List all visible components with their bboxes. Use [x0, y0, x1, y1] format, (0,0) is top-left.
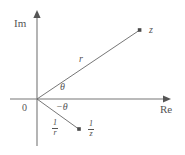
point-label-z: z: [149, 25, 153, 35]
imaginary-axis-label: Im: [14, 18, 26, 29]
real-axis-arrow-icon: [163, 95, 171, 102]
one-over-r-numerator: 1: [52, 119, 58, 127]
angle-label-theta: θ: [60, 82, 65, 92]
magnitude-label-one-over-r: 1 r: [52, 119, 58, 137]
one-over-z-numerator: 1: [88, 120, 94, 128]
point-marker-z: [138, 28, 142, 32]
angle-label-negative-theta: −θ: [56, 102, 68, 112]
origin-label: 0: [22, 103, 27, 113]
one-over-r-denominator: r: [52, 129, 58, 137]
imaginary-axis-arrow-icon: [33, 10, 40, 18]
complex-plane-figure: Im Re 0 z r θ −θ 1 r 1 z: [0, 0, 185, 155]
one-over-z-denominator: z: [88, 130, 94, 138]
real-axis-label: Re: [160, 104, 172, 115]
point-label-one-over-z: 1 z: [88, 120, 94, 138]
point-marker-one-over-z: [77, 127, 81, 131]
ray-to-z: [37, 31, 139, 100]
magnitude-label-r: r: [79, 54, 83, 64]
